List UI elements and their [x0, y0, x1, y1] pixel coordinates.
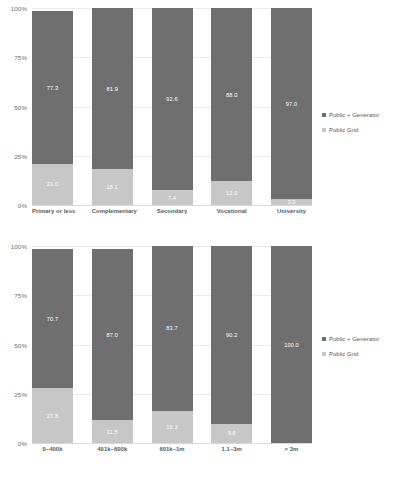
- bar-column[interactable]: 83.716.3: [152, 246, 193, 443]
- legend-swatch-icon: [322, 128, 326, 132]
- x-axis-tick: > 3m: [271, 446, 312, 452]
- legend-top: Public + GeneratorPublic Grid: [322, 112, 401, 142]
- bar-segment[interactable]: 3.0: [271, 199, 312, 205]
- bar-column[interactable]: 77.321.0: [32, 8, 73, 205]
- legend-bottom: Public + GeneratorPublic Grid: [322, 336, 401, 366]
- bar-value-label: 18.1: [92, 184, 133, 190]
- bar-segment[interactable]: 87.0: [92, 249, 133, 420]
- legend-item[interactable]: Public + Generator: [322, 112, 401, 118]
- legend-item[interactable]: Public + Generator: [322, 336, 401, 342]
- stacked-bar-chart-income: 0%25%50%75%100% 70.727.887.011.583.716.3…: [0, 246, 401, 483]
- bar-segment[interactable]: 18.1: [92, 169, 133, 205]
- chart-page: 0%25%50%75%100% 77.321.081.918.192.67.48…: [0, 0, 401, 484]
- bar-segment[interactable]: 90.2: [211, 246, 252, 424]
- y-axis-tick: 50%: [14, 341, 27, 348]
- bar-value-label: 27.8: [32, 413, 73, 419]
- bar-value-label: 97.0: [271, 101, 312, 107]
- x-axis-tick: Secondary: [152, 208, 193, 214]
- gridline: [32, 205, 312, 206]
- bar-value-label: 90.2: [211, 332, 252, 338]
- x-axis-tick: Primary or less: [32, 208, 73, 214]
- legend-label: Public + Generator: [329, 112, 379, 118]
- bar-value-label: 7.4: [152, 195, 193, 201]
- x-axis-tick: 401k–600k: [92, 446, 133, 452]
- bar-column[interactable]: 100.0: [271, 246, 312, 443]
- bar-value-label: 9.8: [211, 430, 252, 436]
- legend-item[interactable]: Public Grid: [322, 351, 401, 357]
- x-axis-tick: 601k–1m: [152, 446, 193, 452]
- bar-segment[interactable]: 100.0: [271, 246, 312, 443]
- bar-value-label: 21.0: [32, 181, 73, 187]
- legend-swatch-icon: [322, 113, 326, 117]
- x-axis-tick: University: [271, 208, 312, 214]
- legend-label: Public Grid: [329, 127, 358, 133]
- y-axis-tick: 75%: [14, 54, 27, 61]
- bar-value-label: 100.0: [271, 342, 312, 348]
- bars-container-top: 77.321.081.918.192.67.488.012.097.03.0: [32, 8, 312, 205]
- bar-segment[interactable]: 21.0: [32, 164, 73, 205]
- bar-segment[interactable]: 27.8: [32, 388, 73, 443]
- legend-swatch-icon: [322, 337, 326, 341]
- y-axis-labels-bottom: 0%25%50%75%100%: [0, 246, 30, 443]
- x-axis-tick: 1.1–3m: [211, 446, 252, 452]
- bar-column[interactable]: 90.29.8: [211, 246, 252, 443]
- legend-swatch-icon: [322, 352, 326, 356]
- y-axis-tick: 25%: [14, 152, 27, 159]
- bar-value-label: 81.9: [92, 86, 133, 92]
- bar-value-label: 16.3: [152, 424, 193, 430]
- bar-segment[interactable]: 16.3: [152, 411, 193, 443]
- plot-area-bottom: 70.727.887.011.583.716.390.29.8100.0: [32, 246, 312, 443]
- y-axis-tick: 100%: [11, 243, 27, 250]
- y-axis-tick: 0%: [18, 202, 27, 209]
- y-axis-tick: 50%: [14, 103, 27, 110]
- bar-value-label: 77.3: [32, 85, 73, 91]
- bar-value-label: 3.0: [271, 199, 312, 205]
- legend-label: Public Grid: [329, 351, 358, 357]
- bar-value-label: 83.7: [152, 325, 193, 331]
- bar-value-label: 88.0: [211, 92, 252, 98]
- bar-column[interactable]: 92.67.4: [152, 8, 193, 205]
- y-axis-tick: 100%: [11, 5, 27, 12]
- bar-column[interactable]: 81.918.1: [92, 8, 133, 205]
- legend-item[interactable]: Public Grid: [322, 127, 401, 133]
- bar-segment[interactable]: 88.0: [211, 8, 252, 181]
- y-axis-tick: 25%: [14, 390, 27, 397]
- bar-value-label: 11.5: [92, 429, 133, 435]
- x-axis-labels-bottom: 0–400k401k–600k601k–1m1.1–3m> 3m: [32, 446, 312, 452]
- bar-segment[interactable]: 77.3: [32, 11, 73, 163]
- x-axis-labels-top: Primary or lessComplementarySecondaryVoc…: [32, 208, 312, 214]
- gridline: [32, 443, 312, 444]
- y-axis-labels-top: 0%25%50%75%100%: [0, 8, 30, 205]
- bar-segment[interactable]: 81.9: [92, 8, 133, 169]
- y-axis-tick: 0%: [18, 440, 27, 447]
- bar-value-label: 70.7: [32, 316, 73, 322]
- legend-label: Public + Generator: [329, 336, 379, 342]
- x-axis-tick: Complementary: [92, 208, 133, 214]
- bar-segment[interactable]: 70.7: [32, 249, 73, 388]
- bar-column[interactable]: 87.011.5: [92, 246, 133, 443]
- bars-container-bottom: 70.727.887.011.583.716.390.29.8100.0: [32, 246, 312, 443]
- plot-area-top: 77.321.081.918.192.67.488.012.097.03.0: [32, 8, 312, 205]
- bar-value-label: 87.0: [92, 332, 133, 338]
- bar-column[interactable]: 97.03.0: [271, 8, 312, 205]
- bar-column[interactable]: 70.727.8: [32, 246, 73, 443]
- stacked-bar-chart-education: 0%25%50%75%100% 77.321.081.918.192.67.48…: [0, 8, 401, 245]
- bar-value-label: 12.0: [211, 190, 252, 196]
- bar-segment[interactable]: 7.4: [152, 190, 193, 205]
- bar-segment[interactable]: 83.7: [152, 246, 193, 411]
- x-axis-tick: Vocational: [211, 208, 252, 214]
- bar-segment[interactable]: 11.5: [92, 420, 133, 443]
- bar-column[interactable]: 88.012.0: [211, 8, 252, 205]
- bar-segment[interactable]: 12.0: [211, 181, 252, 205]
- bar-segment[interactable]: 92.6: [152, 8, 193, 190]
- bar-segment[interactable]: 97.0: [271, 8, 312, 199]
- bar-value-label: 92.6: [152, 96, 193, 102]
- y-axis-tick: 75%: [14, 292, 27, 299]
- bar-segment[interactable]: 9.8: [211, 424, 252, 443]
- x-axis-tick: 0–400k: [32, 446, 73, 452]
